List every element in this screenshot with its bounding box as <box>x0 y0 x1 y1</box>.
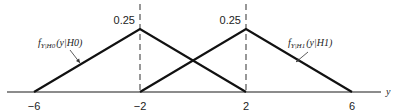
curve-label-h1: fY|H1(y|H1) <box>288 37 333 50</box>
curve-label-h0: fY|H0(y|H0) <box>38 37 83 50</box>
triangular-pdf-chart: y −6−226 0.250.25 fY|H0(y|H0)fY|H1(y|H1) <box>0 0 395 112</box>
x-tick-label: 6 <box>349 100 355 112</box>
x-tick-label: −2 <box>134 100 147 112</box>
x-axis: y <box>7 86 391 97</box>
x-tick-labels: −6−226 <box>28 100 355 112</box>
x-tick-label: 2 <box>243 100 249 112</box>
peak-labels: 0.250.25 <box>114 14 241 26</box>
chart-container: y −6−226 0.250.25 fY|H0(y|H0)fY|H1(y|H1) <box>0 0 395 112</box>
x-axis-label: y <box>385 86 391 97</box>
peak-value-label: 0.25 <box>220 14 241 26</box>
curve-labels: fY|H0(y|H0)fY|H1(y|H1) <box>38 37 333 63</box>
x-tick-label: −6 <box>28 100 41 112</box>
peak-value-label: 0.25 <box>114 14 135 26</box>
arrowhead-icon <box>76 59 80 63</box>
